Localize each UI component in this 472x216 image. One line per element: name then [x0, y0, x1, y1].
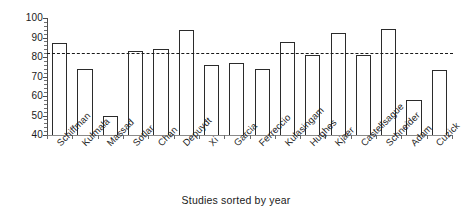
reference-line: [47, 53, 453, 54]
y-axis-minor-tick: [44, 61, 47, 62]
y-axis-minor-tick: [44, 92, 47, 93]
y-axis-minor-tick: [44, 100, 47, 101]
y-axis-minor-tick: [44, 119, 47, 120]
y-axis-minor-tick: [44, 73, 47, 74]
y-axis-major-tick: [43, 116, 48, 117]
y-axis-tick-label: 60: [31, 91, 43, 101]
bar: [356, 55, 371, 135]
y-axis-minor-tick: [44, 45, 47, 46]
y-axis-minor-tick: [44, 108, 47, 109]
y-axis-tick-label: 90: [31, 33, 43, 43]
y-axis-minor-tick: [44, 127, 47, 128]
bar: [179, 30, 194, 135]
x-axis-title: Studies sorted by year: [0, 194, 472, 206]
y-axis-labels: 405060708090100: [0, 0, 43, 216]
y-axis-tick-label: 50: [31, 111, 43, 121]
y-axis-tick-label: 80: [31, 52, 43, 62]
bar: [229, 63, 244, 135]
y-axis-tick-label: 70: [31, 72, 43, 82]
y-axis-major-tick: [43, 77, 48, 78]
y-axis-minor-tick: [44, 69, 47, 70]
y-axis-minor-tick: [44, 123, 47, 124]
bar: [432, 70, 447, 135]
x-axis-tick: [224, 135, 225, 139]
y-axis-minor-tick: [44, 26, 47, 27]
y-axis-minor-tick: [44, 49, 47, 50]
x-axis-tick: [47, 135, 48, 139]
y-axis-minor-tick: [44, 131, 47, 132]
y-axis-major-tick: [43, 96, 48, 97]
y-axis-minor-tick: [44, 65, 47, 66]
y-axis-major-tick: [43, 18, 48, 19]
y-axis-minor-tick: [44, 80, 47, 81]
y-axis-tick-label: 100: [26, 13, 43, 23]
y-axis-minor-tick: [44, 22, 47, 23]
bar: [153, 49, 168, 135]
y-axis-minor-tick: [44, 88, 47, 89]
y-axis-minor-tick: [44, 34, 47, 35]
y-axis-tick-label: 40: [31, 130, 43, 140]
x-axis-category-label: Xi: [207, 135, 220, 148]
y-axis-minor-tick: [44, 41, 47, 42]
bar: [52, 43, 67, 135]
y-axis-minor-tick: [44, 30, 47, 31]
bar-chart: 405060708090100 Studies sorted by year S…: [0, 0, 472, 216]
y-axis-minor-tick: [44, 84, 47, 85]
y-axis-minor-tick: [44, 112, 47, 113]
y-axis-minor-tick: [44, 104, 47, 105]
y-axis-major-tick: [43, 57, 48, 58]
y-axis-major-tick: [43, 38, 48, 39]
